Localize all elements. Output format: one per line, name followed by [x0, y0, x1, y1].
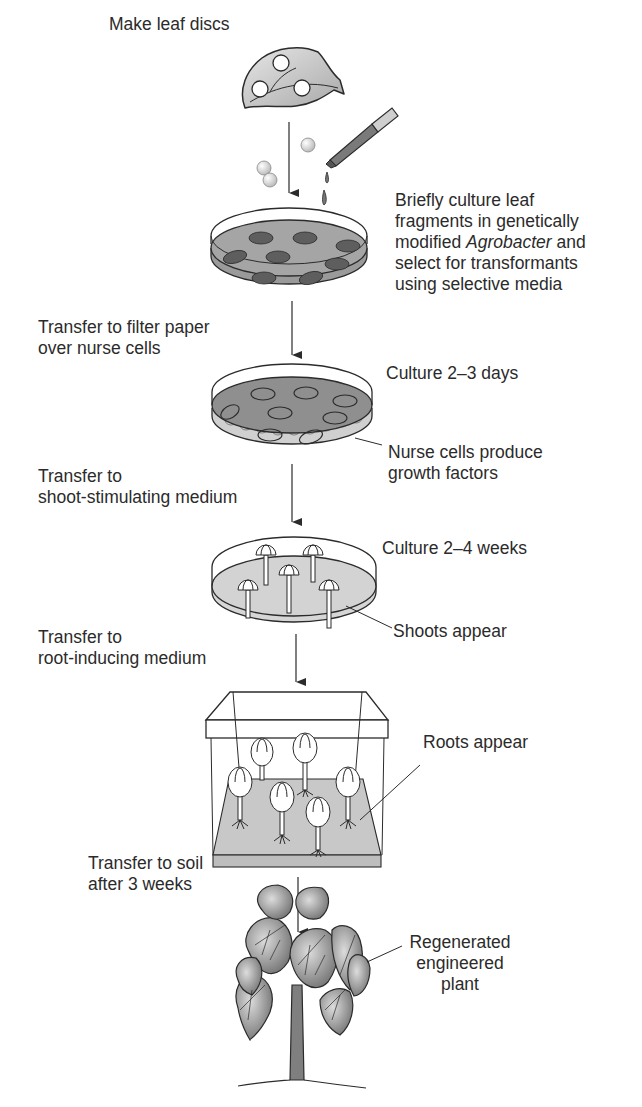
- label-line: Transfer to soil: [88, 853, 203, 874]
- label-line: growth factors: [388, 463, 543, 484]
- shoots-leader: [346, 606, 392, 628]
- label-line: over nurse cells: [38, 338, 210, 359]
- label-line: Transfer to filter paper: [38, 317, 210, 338]
- label-line: using selective media: [395, 274, 586, 295]
- label-culture-days: Culture 2–3 days: [386, 363, 518, 384]
- petri-dish-shoots: [212, 537, 376, 628]
- label-text: modified: [395, 232, 466, 252]
- label-make-leaf-discs: Make leaf discs: [109, 14, 230, 35]
- petri-dish-nurse-cells: [212, 364, 372, 447]
- label-line: Transfer to: [38, 466, 237, 487]
- rooting-box: [206, 692, 388, 867]
- diagram-artwork: [0, 0, 642, 1107]
- label-line: Transfer to: [38, 627, 206, 648]
- label-line: select for transformants: [395, 253, 586, 274]
- leaf-icon: [242, 48, 344, 108]
- label-shoots-appear: Shoots appear: [393, 621, 507, 642]
- label-culture-weeks: Culture 2–4 weeks: [382, 538, 527, 559]
- nurse-cells-leader: [355, 438, 382, 445]
- label-agro-culture: Briefly culture leaf fragments in geneti…: [395, 190, 586, 295]
- label-transfer-shoot: Transfer to shoot-stimulating medium: [38, 466, 237, 508]
- regenerated-plant-icon: [236, 885, 370, 1088]
- label-nurse-cells: Nurse cells produce growth factors: [388, 442, 543, 484]
- label-organism: Agrobacter: [466, 232, 552, 252]
- label-line: Briefly culture leaf: [395, 190, 586, 211]
- label-regenerated-plant: Regenerated engineered plant: [404, 932, 516, 995]
- leaf-disc-icon: [257, 138, 315, 187]
- roots-leader: [360, 765, 420, 820]
- label-line: plant: [404, 974, 516, 995]
- label-transfer-root: Transfer to root-inducing medium: [38, 627, 206, 669]
- label-line: shoot-stimulating medium: [38, 487, 237, 508]
- label-transfer-filter: Transfer to filter paper over nurse cell…: [38, 317, 210, 359]
- plant-leader: [367, 946, 402, 962]
- petri-dish-agrobacter: [211, 208, 367, 287]
- label-line: fragments in genetically: [395, 211, 586, 232]
- label-line: engineered: [404, 953, 516, 974]
- label-line: after 3 weeks: [88, 874, 203, 895]
- label-roots-appear: Roots appear: [423, 732, 528, 753]
- pipette-icon: [323, 108, 399, 205]
- label-line: Regenerated: [404, 932, 516, 953]
- label-line: root-inducing medium: [38, 648, 206, 669]
- label-transfer-soil: Transfer to soil after 3 weeks: [88, 853, 203, 895]
- label-line: Nurse cells produce: [388, 442, 543, 463]
- label-line: modified Agrobacter and: [395, 232, 586, 253]
- label-text: and: [552, 232, 586, 252]
